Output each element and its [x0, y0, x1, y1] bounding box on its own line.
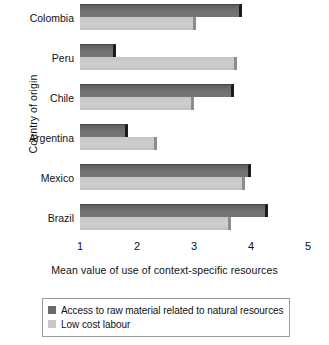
x-tick-4: 4: [241, 240, 261, 252]
bar-mexico-low-cost-labour: [80, 177, 245, 190]
chart-legend: Access to raw material related to natura…: [42, 298, 290, 337]
bar-peru-low-cost-labour: [80, 57, 237, 70]
legend-item-raw-material: Access to raw material related to natura…: [48, 303, 284, 317]
x-tick-1: 1: [70, 240, 90, 252]
bar-colombia-raw-material: [80, 4, 242, 17]
legend-label-low-cost-labour: Low cost labour: [61, 319, 130, 330]
category-label-argentina: Argentina: [29, 132, 74, 144]
legend-swatch-icon-raw-material: [48, 306, 56, 314]
x-axis-tick-labels: 1 2 3 4 5: [80, 240, 308, 256]
y-axis-title: Country of origin: [27, 34, 39, 194]
bar-group-argentina: Argentina: [80, 124, 308, 156]
category-label-colombia: Colombia: [30, 12, 74, 24]
legend-label-raw-material: Access to raw material related to natura…: [61, 305, 284, 316]
x-tick-2: 2: [127, 240, 147, 252]
bar-group-mexico: Mexico: [80, 164, 308, 196]
category-label-mexico: Mexico: [41, 172, 74, 184]
plot-area: Colombia Peru Chile: [80, 4, 308, 240]
bar-argentina-raw-material: [80, 124, 128, 137]
bar-group-colombia: Colombia: [80, 4, 308, 36]
category-label-brazil: Brazil: [48, 212, 74, 224]
bar-peru-raw-material: [80, 44, 116, 57]
bar-argentina-low-cost-labour: [80, 137, 157, 150]
category-label-peru: Peru: [52, 52, 74, 64]
x-tick-3: 3: [184, 240, 204, 252]
bar-group-brazil: Brazil: [80, 204, 308, 236]
bar-mexico-raw-material: [80, 164, 251, 177]
bar-brazil-raw-material: [80, 204, 268, 217]
bar-chile-raw-material: [80, 84, 234, 97]
x-axis-title: Mean value of use of context-specific re…: [0, 264, 329, 276]
legend-item-low-cost-labour: Low cost labour: [48, 317, 284, 331]
x-tick-5: 5: [298, 240, 318, 252]
legend-swatch-icon-low-cost-labour: [48, 320, 56, 328]
bar-colombia-low-cost-labour: [80, 17, 196, 30]
bar-chile-low-cost-labour: [80, 97, 194, 110]
bar-group-chile: Chile: [80, 84, 308, 116]
category-label-chile: Chile: [50, 92, 74, 104]
bar-brazil-low-cost-labour: [80, 217, 231, 230]
bar-group-peru: Peru: [80, 44, 308, 76]
bar-chart: Country of origin Colombia Peru Chile: [0, 0, 329, 345]
